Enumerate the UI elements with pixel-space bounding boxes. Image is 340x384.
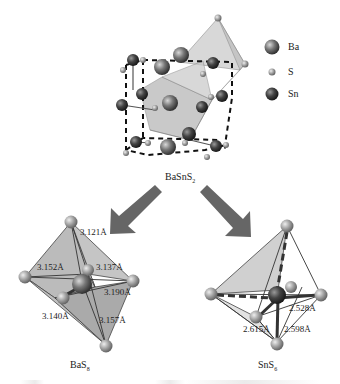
- distance-label: 2.598Å: [284, 324, 311, 334]
- legend-ba-label: Ba: [288, 41, 299, 52]
- s-atom-icon: [269, 69, 276, 76]
- ba-atom-icon: [265, 40, 280, 55]
- sn-atom-icon: [266, 88, 279, 101]
- distance-label: 3.137Å: [96, 262, 123, 272]
- sns6-formula: SnS6: [258, 359, 277, 372]
- figure: Ba S Sn BaSnS2 3.121Å 3.152Å 3.137Å 3.19…: [0, 0, 340, 384]
- cropped-caption: [20, 380, 320, 384]
- legend-s-label: S: [288, 66, 294, 77]
- distance-label: 3.152Å: [37, 262, 64, 272]
- distance-label: 3.157Å: [99, 315, 126, 325]
- bas8-formula: BaS8: [70, 359, 90, 372]
- distance-label: 2.615Å: [243, 324, 270, 334]
- arrow-left-icon: [110, 185, 162, 234]
- distance-label: 3.121Å: [80, 227, 107, 237]
- crystal-formula: BaSnS2: [165, 171, 195, 184]
- crystal-structure: [116, 15, 249, 161]
- bas8-polyhedron: [19, 216, 140, 353]
- legend-sn-label: Sn: [288, 88, 299, 99]
- arrow-right-icon: [200, 185, 251, 237]
- distance-label: 2.528Å: [289, 303, 316, 313]
- distance-label: 3.140Å: [42, 311, 69, 321]
- distance-label: 3.190Å: [104, 287, 131, 297]
